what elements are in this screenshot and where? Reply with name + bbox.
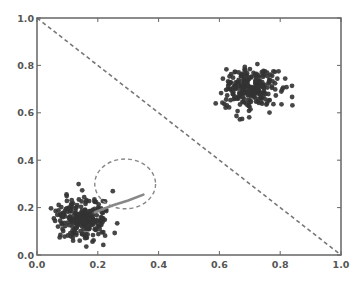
- data-point: [87, 199, 92, 204]
- data-point: [242, 65, 247, 70]
- data-point: [101, 230, 106, 235]
- scatter-chart: 0.00.20.40.60.81.0 0.00.20.40.60.81.0: [0, 0, 364, 283]
- data-point: [266, 80, 271, 85]
- data-point: [57, 235, 62, 240]
- data-point: [248, 67, 253, 72]
- cluster-lower-left: [49, 182, 120, 249]
- data-point: [250, 85, 255, 90]
- data-point: [247, 104, 252, 109]
- data-point: [249, 75, 254, 80]
- data-point: [81, 227, 86, 232]
- data-point: [61, 229, 66, 234]
- trajectory-line: [95, 195, 144, 213]
- x-tick-label: 0.4: [150, 259, 167, 270]
- data-point: [270, 73, 275, 78]
- data-point: [247, 115, 252, 120]
- data-point: [87, 216, 92, 221]
- data-point: [79, 204, 84, 209]
- data-point: [73, 211, 78, 216]
- data-point: [91, 233, 96, 238]
- data-point: [77, 238, 82, 243]
- data-point: [224, 87, 229, 92]
- data-point: [66, 206, 71, 211]
- y-tick-label: 0.2: [17, 202, 34, 213]
- data-point: [261, 94, 266, 99]
- data-point: [66, 215, 71, 220]
- data-point: [283, 76, 288, 81]
- data-point: [225, 93, 230, 98]
- data-point: [52, 216, 57, 221]
- data-point: [94, 200, 99, 205]
- data-point: [49, 206, 54, 211]
- x-tick-label: 0.2: [89, 259, 106, 270]
- data-point: [74, 221, 79, 226]
- data-point: [255, 62, 260, 67]
- data-point: [62, 234, 67, 239]
- data-point: [221, 76, 226, 81]
- data-point: [84, 244, 89, 249]
- data-point: [236, 70, 241, 75]
- data-point: [68, 234, 73, 239]
- data-point: [241, 91, 246, 96]
- data-point: [273, 69, 278, 74]
- data-point: [265, 70, 270, 75]
- x-tick-label: 1.0: [333, 259, 350, 270]
- data-point: [219, 91, 224, 96]
- data-point: [236, 78, 241, 83]
- data-point: [225, 103, 230, 108]
- data-point: [56, 208, 61, 213]
- data-point: [229, 72, 234, 77]
- data-point: [234, 114, 239, 119]
- data-point: [101, 243, 106, 248]
- data-point: [77, 197, 82, 202]
- data-point: [83, 232, 88, 237]
- data-point: [245, 84, 250, 89]
- data-point: [65, 220, 70, 225]
- x-tick-label: 0.8: [272, 259, 289, 270]
- data-point: [270, 85, 275, 90]
- data-point: [112, 231, 117, 236]
- y-tick-label: 0.6: [17, 107, 34, 118]
- data-point: [64, 194, 69, 199]
- data-point: [255, 84, 260, 89]
- data-point: [213, 101, 218, 106]
- data-point: [58, 218, 63, 223]
- data-point: [290, 83, 295, 88]
- x-tick-label: 0.0: [29, 259, 46, 270]
- data-point: [290, 103, 295, 108]
- data-point: [80, 188, 85, 193]
- data-point: [241, 99, 246, 104]
- annotations-front-layer: [95, 159, 156, 212]
- data-point: [273, 93, 278, 98]
- data-point: [281, 85, 286, 90]
- data-point: [73, 206, 78, 211]
- data-points-layer: [49, 62, 295, 249]
- data-point: [69, 198, 74, 203]
- data-point: [259, 70, 264, 75]
- data-point: [224, 67, 229, 72]
- x-tick-label: 0.6: [211, 259, 228, 270]
- data-point: [60, 214, 65, 219]
- data-point: [90, 239, 95, 244]
- data-point: [76, 182, 81, 187]
- cluster-upper-right: [213, 62, 294, 122]
- data-point: [271, 102, 276, 107]
- data-point: [290, 95, 295, 100]
- data-point: [235, 109, 240, 114]
- data-point: [247, 89, 252, 94]
- data-point: [70, 224, 75, 229]
- data-point: [267, 110, 272, 115]
- data-point: [247, 108, 252, 113]
- data-point: [94, 218, 99, 223]
- data-point: [238, 117, 243, 122]
- data-point: [87, 212, 92, 217]
- y-tick-label: 0.4: [17, 155, 34, 166]
- data-point: [230, 92, 235, 97]
- data-point: [227, 82, 232, 87]
- data-point: [94, 213, 99, 218]
- data-point: [243, 72, 248, 77]
- data-point: [102, 217, 107, 222]
- data-point: [65, 199, 70, 204]
- data-point: [224, 97, 229, 102]
- data-point: [254, 75, 259, 80]
